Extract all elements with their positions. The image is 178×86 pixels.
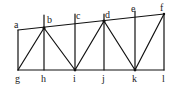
label-a: a	[14, 19, 19, 30]
label-d: d	[105, 9, 110, 20]
label-c: c	[76, 10, 81, 21]
member-g-b	[18, 28, 44, 70]
member-k-f	[135, 14, 164, 70]
label-k: k	[132, 73, 137, 84]
member-b-i	[44, 28, 75, 70]
label-f: f	[160, 2, 164, 13]
joint-b	[42, 26, 45, 29]
member-i-d	[75, 21, 104, 70]
label-l: l	[162, 73, 165, 84]
member-d-k	[104, 21, 135, 70]
joint-i	[74, 69, 77, 72]
joint-k	[134, 69, 137, 72]
label-b: b	[47, 14, 52, 25]
label-j: j	[101, 73, 105, 84]
top-chord	[18, 14, 164, 30]
joint-f	[163, 13, 165, 15]
label-g: g	[15, 73, 20, 84]
label-e: e	[131, 3, 136, 14]
label-h: h	[41, 73, 46, 84]
label-i: i	[73, 73, 76, 84]
truss-diagram: a b c d e f g h i j k l	[0, 0, 178, 86]
